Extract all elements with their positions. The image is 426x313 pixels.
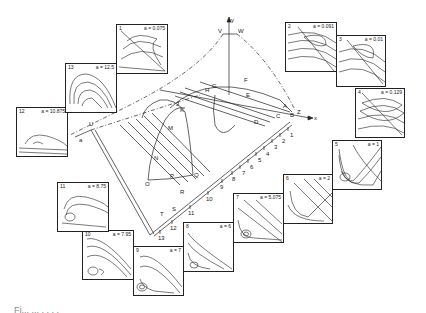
panel-number: 4 [358,89,361,95]
label-h: H [205,87,209,93]
tick-7: 7 [242,170,246,176]
panel-parameter: a = 2 [319,175,330,181]
label-w: W [238,28,244,34]
label-f: F [244,77,248,83]
phase-panel-10: 10 a = 7.95 [82,230,134,280]
tick-4: 4 [266,151,270,157]
phase-panel-9: 9 a = 7 [133,246,184,296]
phase-panel-13: 13 a = 12.5 [65,63,117,113]
panel-number: 13 [68,64,74,70]
label-g: G [212,83,217,89]
phase-panel-7: 7 a = 5.075 [233,193,284,243]
label-b: B [290,112,294,118]
tick-12: 12 [170,225,177,231]
panel-number: 8 [186,223,189,229]
panel-number: 1 [119,25,122,31]
panel-parameter: a = 0.129 [381,89,402,95]
phase-curves [58,183,109,232]
phase-curves [333,141,382,190]
figure-caption: Fi... ... . . . . [14,305,59,313]
label-p: P [170,173,174,179]
panel-number: 9 [136,247,139,253]
phase-curves [184,223,234,272]
phase-panel-4: 4 a = 0.129 [355,88,405,138]
phase-curves [284,175,333,224]
label-z: Z [297,109,301,115]
tick-3: 3 [274,144,278,150]
phase-curves [117,25,168,74]
label-s: S [172,206,176,212]
label-e: E [246,92,250,98]
panel-parameter: a = 8.75 [88,183,106,189]
phase-panel-8: 8 a = 6 [183,222,234,272]
tick-5: 5 [258,157,262,163]
label-j: J [176,101,179,107]
panel-parameter: a = 6 [220,223,231,229]
label-r: R [180,189,185,195]
panel-number: 12 [19,108,25,114]
tick-2: 2 [282,138,286,144]
panel-parameter: a = 5.075 [260,194,281,200]
phase-curves [66,64,117,113]
tick-13: 13 [158,235,165,241]
phase-panel-11: 11 a = 8.75 [57,182,109,232]
phase-panel-12: 12 a = 10.875 [16,107,68,157]
phase-panel-6: 6 a = 2 [283,174,333,224]
axis-label-x: x [314,115,317,121]
label-u: U [89,121,93,127]
label-m: M [168,125,173,131]
phase-panel-3: 3 a = 0.01 [336,35,386,87]
panel-number: 2 [288,23,291,29]
panel-parameter: a = 0.01 [365,36,383,42]
phase-curves [134,247,184,296]
phase-curves [286,23,337,72]
phase-curves [356,89,405,138]
panel-number: 7 [236,194,239,200]
panel-parameter: a = 7.95 [113,231,131,237]
phase-curves [17,108,68,157]
panel-number: 5 [335,141,338,147]
label-o: O [145,181,150,187]
tick-10: 10 [206,196,213,202]
panel-parameter: a = 0.091 [313,23,334,29]
tick-8: 8 [232,176,236,182]
phase-panel-5: 5 a = 1 [332,140,382,190]
phase-panel-1: 1 a = 0.075 [116,24,168,74]
label-c: C [276,113,281,119]
panel-number: 3 [339,36,342,42]
label-n: N [154,155,158,161]
panel-number: 6 [286,175,289,181]
panel-number: 11 [60,183,65,189]
phase-curves [83,231,134,280]
label-d: D [254,119,259,125]
panel-parameter: a = 12.5 [96,64,114,70]
tick-6: 6 [250,164,254,170]
tick-11: 11 [188,210,195,216]
panel-parameter: a = 7 [170,247,181,253]
panel-parameter: a = 0.075 [144,25,165,31]
phase-curves [337,36,386,87]
phase-curves [234,194,284,243]
label-k: K [180,107,184,113]
tick-9: 9 [220,184,224,190]
label-t: T [160,211,164,217]
label-v: V [218,28,222,34]
label-q: Q [194,172,199,178]
label-a-pt: A [283,103,287,109]
tick-1: 1 [290,132,294,138]
panel-parameter: a = 10.875 [41,108,65,114]
axis-label-y: y [231,17,234,23]
phase-panel-2: 2 a = 0.091 [285,22,337,72]
panel-parameter: a = 1 [368,141,379,147]
label-a: a [79,137,83,143]
